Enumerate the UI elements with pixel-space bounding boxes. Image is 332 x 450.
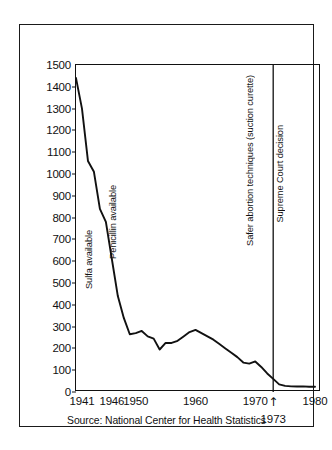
x-axis-tick-label: 1950 <box>123 395 148 407</box>
y-axis-tick-label: 1100 <box>47 146 71 158</box>
y-axis-tick-mark <box>72 348 76 349</box>
annotation-penicillin: Penicillin available <box>108 185 118 259</box>
y-axis-tick-label: 200 <box>52 342 71 354</box>
y-axis-tick-label: 800 <box>52 212 71 224</box>
y-axis-tick-label: 1000 <box>46 168 71 180</box>
y-axis-tick-mark <box>72 283 76 284</box>
x-axis-tick-label: 1946 <box>99 395 124 407</box>
y-axis-tick-label: 100 <box>52 364 71 376</box>
x-axis-tick-label: 1941 <box>70 395 95 407</box>
annotation-supreme-court: Supreme Court decision <box>275 125 285 223</box>
annotation-abortion-techniques: Safer abortion techniques (suction curet… <box>245 75 255 246</box>
y-axis-tick-mark <box>72 261 76 262</box>
y-axis-tick-mark <box>72 304 76 305</box>
y-axis-tick-mark <box>72 108 76 109</box>
y-axis-tick-label: 1200 <box>46 124 71 136</box>
y-axis-tick-mark <box>72 326 76 327</box>
y-axis-tick-label: 300 <box>52 321 71 333</box>
y-axis-tick-label: 600 <box>52 255 71 267</box>
y-axis-tick-mark <box>72 239 76 240</box>
x-axis-tick-label: 1960 <box>183 395 208 407</box>
figure-container: 0100200300400500600700800900100011001200… <box>0 0 332 450</box>
y-axis-tick-label: 1300 <box>46 103 71 115</box>
figure-outer-frame: 0100200300400500600700800900100011001200… <box>19 24 314 427</box>
y-axis-tick-mark <box>72 217 76 218</box>
y-axis-tick-mark <box>72 174 76 175</box>
y-axis-tick-mark <box>72 370 76 371</box>
annotation-sulfa: Sulfa available <box>84 230 94 289</box>
source-note: Source: National Center for Health Stati… <box>20 415 313 426</box>
y-axis-tick-label: 1400 <box>46 81 71 93</box>
y-axis-tick-mark <box>72 152 76 153</box>
x-axis-tick-label: 1980 <box>303 395 328 407</box>
y-axis-tick-label: 900 <box>52 190 71 202</box>
y-axis-tick-label: 1500 <box>46 59 71 71</box>
y-axis-tick-mark <box>72 130 76 131</box>
y-axis-tick-mark <box>72 195 76 196</box>
marker-arrow-icon: ↑ <box>268 396 278 408</box>
x-axis-tick-label: 1970 <box>243 395 268 407</box>
y-axis-tick-mark <box>72 86 76 87</box>
y-axis-tick-label: 400 <box>52 299 71 311</box>
y-axis-tick-label: 500 <box>52 277 71 289</box>
y-axis-tick-label: 700 <box>52 233 71 245</box>
chart-plot-area: 0100200300400500600700800900100011001200… <box>75 64 320 391</box>
y-axis-tick-mark <box>72 392 76 393</box>
